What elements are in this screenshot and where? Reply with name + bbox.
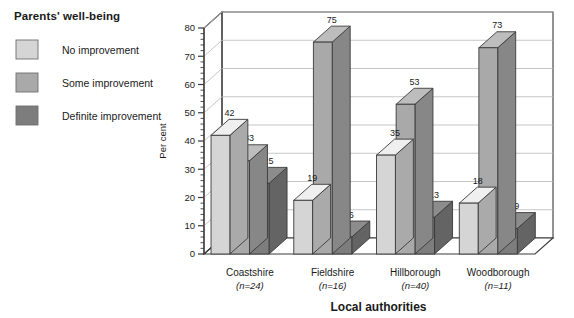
y-axis: 01020304050607080Per cent bbox=[157, 22, 204, 259]
legend-title: Parents' well-being bbox=[14, 10, 120, 22]
bar-side-face bbox=[249, 145, 267, 254]
x-axis: Coastshire(n=24)Fieldshire(n=16)Hillboro… bbox=[226, 267, 529, 314]
y-axis-tick-label: 50 bbox=[184, 107, 195, 118]
category-label: Coastshire bbox=[226, 267, 274, 278]
chart-container: 01020304050607080Per cent973181353356751… bbox=[0, 0, 574, 318]
legend-swatch bbox=[16, 40, 38, 59]
x-axis-title: Local authorities bbox=[330, 300, 426, 314]
category-label: Hillborough bbox=[390, 267, 441, 278]
y-axis-tick-label: 80 bbox=[184, 22, 195, 33]
legend-item: No improvement bbox=[16, 40, 139, 59]
bar-value-label: 19 bbox=[307, 173, 317, 183]
gridline-depth-connector bbox=[204, 12, 222, 28]
bar-side-face bbox=[395, 139, 413, 254]
legend-item-label: Some improvement bbox=[62, 77, 153, 89]
y-axis-tick-label: 40 bbox=[184, 135, 195, 146]
y-axis-tick-label: 10 bbox=[184, 220, 195, 231]
bar-chart-svg: 01020304050607080Per cent973181353356751… bbox=[0, 0, 574, 318]
bar-side-face bbox=[415, 88, 433, 254]
category-sample-size: (n=16) bbox=[319, 280, 347, 291]
y-axis-title: Per cent bbox=[157, 123, 168, 159]
y-axis-tick-label: 60 bbox=[184, 79, 195, 90]
y-axis-tick-label: 30 bbox=[184, 164, 195, 175]
bar-side-face bbox=[230, 119, 248, 254]
legend-item-label: No improvement bbox=[62, 44, 139, 56]
bar-front-face bbox=[211, 135, 230, 254]
legend: Parents' well-beingNo improvementSome im… bbox=[14, 10, 161, 125]
category-sample-size: (n=24) bbox=[236, 280, 264, 291]
bar-front-face bbox=[294, 200, 313, 254]
gridline-depth-connector bbox=[204, 40, 222, 56]
category-sample-size: (n=11) bbox=[485, 280, 512, 291]
y-axis-tick-label: 20 bbox=[184, 192, 195, 203]
category-sample-size: (n=40) bbox=[402, 280, 430, 291]
bar-front-face bbox=[377, 155, 396, 254]
bar-front-face bbox=[459, 203, 478, 254]
bar-value-label: 75 bbox=[327, 15, 337, 25]
bar-value-label: 42 bbox=[224, 108, 234, 118]
legend-swatch bbox=[16, 73, 38, 92]
category-label: Woodborough bbox=[467, 267, 530, 278]
legend-swatch bbox=[16, 106, 38, 125]
bar-value-label: 53 bbox=[410, 77, 420, 87]
category-label: Fieldshire bbox=[311, 267, 355, 278]
gridline-depth-connector bbox=[204, 97, 222, 113]
bar-value-label: 73 bbox=[492, 20, 502, 30]
bar-value-label: 18 bbox=[473, 176, 483, 186]
y-axis-tick-label: 0 bbox=[190, 248, 195, 259]
legend-item: Some improvement bbox=[16, 73, 153, 92]
legend-item-label: Definite improvement bbox=[62, 110, 161, 122]
bar-side-face bbox=[498, 32, 516, 254]
gridline-depth-connector bbox=[204, 69, 222, 85]
bar-value-label: 35 bbox=[390, 128, 400, 138]
bar-side-face bbox=[332, 26, 350, 254]
y-axis-tick-label: 70 bbox=[184, 51, 195, 62]
legend-item: Definite improvement bbox=[16, 106, 161, 125]
